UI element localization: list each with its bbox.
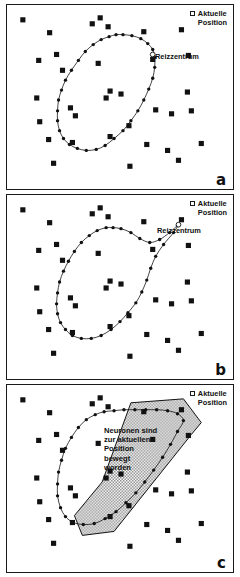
- neuron-node: [129, 231, 132, 234]
- current-position-marker: [141, 409, 146, 414]
- neuron-node: [153, 66, 156, 69]
- neuron-node: [139, 37, 142, 40]
- neuron-node: [62, 137, 65, 140]
- current-position-marker: [60, 258, 65, 263]
- scatter-plot-b: [7, 195, 233, 379]
- legend-label-b: Aktuelle Position: [198, 200, 227, 217]
- current-position-marker: [106, 24, 111, 29]
- neuron-node: [56, 109, 59, 112]
- current-position-marker: [169, 301, 174, 306]
- current-position-marker: [189, 108, 194, 113]
- current-position-marker: [127, 354, 132, 359]
- neuron-node: [122, 408, 125, 411]
- neuron-node: [133, 408, 136, 411]
- neuron-node: [73, 250, 76, 253]
- neuron-node: [147, 87, 150, 90]
- neuron-node: [70, 436, 73, 439]
- neuron-node: [85, 149, 88, 152]
- current-position-marker: [108, 88, 113, 93]
- neuron-node: [134, 491, 137, 494]
- current-position-marker: [165, 338, 170, 343]
- current-position-marker: [126, 123, 131, 128]
- neuron-node: [96, 229, 99, 232]
- current-position-marker: [176, 158, 181, 163]
- open-square-marker-icon: [190, 201, 195, 206]
- scatter-plot-a: [7, 5, 233, 189]
- neuron-node: [80, 337, 83, 340]
- current-position-marker: [73, 493, 78, 498]
- current-position-marker: [199, 521, 204, 526]
- current-position-marker: [199, 141, 204, 146]
- current-position-marker: [153, 487, 158, 492]
- current-position-marker: [185, 469, 190, 474]
- neuron-node: [104, 226, 107, 229]
- current-position-marker: [96, 61, 101, 66]
- neuron-ring-curve: [57, 226, 178, 339]
- neuron-node: [80, 241, 83, 244]
- neuron-node: [112, 409, 115, 412]
- current-position-marker: [141, 29, 146, 34]
- current-position-marker: [34, 95, 39, 100]
- current-position-marker: [96, 251, 101, 256]
- open-square-marker-icon: [190, 391, 195, 396]
- neuron-node: [136, 109, 139, 112]
- neuron-node: [93, 522, 96, 525]
- current-position-marker: [90, 211, 95, 216]
- current-position-marker: [90, 21, 95, 26]
- current-position-marker: [144, 142, 149, 147]
- neuron-node: [90, 337, 93, 340]
- panel-b: Aktuelle Position Reizzentrum b: [6, 194, 234, 380]
- current-position-marker: [176, 538, 181, 543]
- neuron-node: [59, 321, 62, 324]
- current-position-marker: [51, 541, 56, 546]
- current-position-marker: [144, 522, 149, 527]
- neuron-node: [155, 408, 158, 411]
- neuron-node: [182, 419, 185, 422]
- current-position-marker: [118, 91, 123, 96]
- current-position-marker: [20, 17, 25, 22]
- neuron-node: [103, 517, 106, 520]
- current-position-marker: [127, 544, 132, 549]
- neuron-node: [58, 280, 61, 283]
- current-position-marker: [126, 313, 131, 318]
- neuron-node: [88, 234, 91, 237]
- current-position-marker: [126, 503, 131, 508]
- panel-a: Aktuelle Position Reizzentrum a: [6, 4, 234, 190]
- current-position-marker: [179, 407, 184, 412]
- current-position-marker: [70, 520, 75, 525]
- neuron-node: [64, 515, 67, 518]
- current-position-marker: [118, 471, 123, 476]
- current-position-marker: [54, 432, 59, 437]
- neuron-node: [151, 48, 154, 51]
- neuron-node: [176, 430, 179, 433]
- current-position-marker: [36, 248, 41, 253]
- current-position-marker: [51, 351, 56, 356]
- neuron-node: [56, 482, 59, 485]
- neuron-node: [158, 238, 161, 241]
- current-position-marker: [106, 214, 111, 219]
- neuron-node: [114, 33, 117, 36]
- neuron-node: [62, 269, 65, 272]
- neuron-node: [64, 328, 67, 331]
- current-position-marker: [47, 30, 52, 35]
- legend-label-c: Aktuelle Position: [198, 390, 227, 407]
- current-position-marker: [179, 217, 184, 222]
- neuron-node: [57, 470, 60, 473]
- neuron-node: [121, 129, 124, 132]
- current-position-marker: [141, 219, 146, 224]
- panel-c: Aktuelle Position Neuronen sind zur aktu…: [6, 384, 234, 573]
- neuron-node: [145, 278, 148, 281]
- neuron-node: [56, 291, 59, 294]
- current-position-marker: [60, 448, 65, 453]
- neuron-node: [92, 43, 95, 46]
- current-position-marker: [96, 441, 101, 446]
- neuron-node: [161, 456, 164, 459]
- neuron-node: [148, 241, 151, 244]
- panel-label-c: c: [217, 556, 226, 571]
- neuron-node: [99, 334, 102, 337]
- current-position-marker: [199, 331, 204, 336]
- neuron-node: [102, 410, 105, 413]
- current-position-marker: [185, 89, 190, 94]
- current-position-marker: [186, 243, 191, 248]
- neuron-node: [176, 412, 179, 415]
